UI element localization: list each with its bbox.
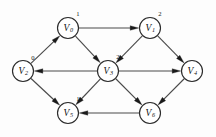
edge-v2-v5	[31, 79, 60, 106]
edge-v3-v6-line	[116, 79, 137, 100]
edge-v3-v5-line	[81, 79, 101, 100]
edge-v0-v1-arrowhead	[130, 26, 139, 31]
edge-v3-v6	[116, 79, 142, 105]
edge-v0-v3	[75, 36, 100, 63]
node-v2[interactable]: V20	[13, 54, 36, 82]
edge-v3-v4-arrowhead	[172, 69, 181, 74]
node-v1[interactable]: V12	[140, 10, 162, 39]
diagram-canvas: V01V12V20V32V4V51V6	[0, 0, 216, 137]
edge-v4-v6-line	[163, 79, 184, 100]
edge-v4-v6	[158, 79, 184, 105]
node-v4-subscript: 4	[194, 69, 197, 76]
edge-v6-v5-arrowhead	[79, 111, 88, 116]
edge-v0-v3-line	[75, 36, 95, 58]
node-v1-subscript: 1	[152, 26, 155, 33]
node-v0[interactable]: V01	[58, 10, 80, 39]
node-v5-subscript: 5	[70, 111, 73, 118]
node-v3-weight: 2	[116, 53, 119, 60]
nodes-layer: V01V12V20V32V4V51V6	[13, 10, 203, 124]
edge-v1-v3	[116, 36, 142, 63]
node-v5-weight: 1	[76, 95, 79, 102]
edge-v1-v4	[158, 36, 184, 63]
node-v2-subscript: 2	[25, 69, 28, 76]
node-v5[interactable]: V51	[58, 95, 80, 124]
edge-v3-v2-arrowhead	[34, 69, 43, 74]
edge-v3-v2	[34, 69, 97, 74]
node-v3[interactable]: V32	[98, 53, 120, 82]
node-v6[interactable]: V6	[140, 103, 161, 124]
directed-graph: V01V12V20V32V4V51V6	[0, 0, 216, 137]
node-v3-subscript: 3	[109, 69, 113, 76]
edge-v6-v5	[79, 111, 139, 116]
edge-v2-v5-line	[31, 79, 55, 101]
edge-v1-v4-line	[158, 36, 180, 58]
node-v1-weight: 2	[158, 10, 161, 17]
edge-v2-v0	[31, 36, 60, 64]
node-v4[interactable]: V4	[182, 61, 203, 82]
edge-v0-v1	[79, 26, 139, 31]
edge-v1-v3-line	[121, 36, 143, 58]
edge-v3-v4	[119, 69, 181, 74]
node-v0-weight: 1	[76, 10, 79, 17]
